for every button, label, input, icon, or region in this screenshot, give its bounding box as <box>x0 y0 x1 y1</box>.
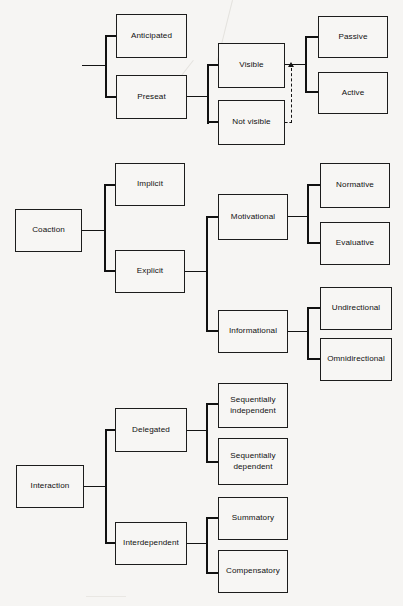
connector-preseat-to-bracket <box>187 96 208 97</box>
bracket-informational-split <box>307 307 309 360</box>
node-compensatory[interactable]: Compensatory <box>218 550 288 593</box>
node-label: Sequentially independent <box>230 395 276 416</box>
node-active[interactable]: Active <box>318 72 388 114</box>
node-label: Motivational <box>231 212 275 222</box>
node-label: Evaluative <box>336 238 374 248</box>
node-passive[interactable]: Passive <box>318 16 388 58</box>
node-label: Interaction <box>31 481 70 491</box>
connector-bracket-to-evaluative <box>307 242 321 244</box>
node-label: Coaction <box>32 225 65 235</box>
node-normative[interactable]: Normative <box>320 163 390 208</box>
node-motivational[interactable]: Motivational <box>218 194 288 240</box>
bracket-coaction-split <box>104 184 106 272</box>
feedback-arrow-line <box>291 68 292 123</box>
node-label: Sequentially dependent <box>230 451 275 472</box>
bracket-explicit-split <box>206 216 208 332</box>
bracket-interdependent-split <box>206 517 208 574</box>
node-omnidirectional[interactable]: Omnidirectional <box>320 338 392 381</box>
node-label: Compensatory <box>226 566 280 576</box>
scan-artifact <box>86 596 126 597</box>
node-label: Anticipated <box>131 31 172 41</box>
node-label: Passive <box>338 32 367 42</box>
node-label: Not visible <box>232 117 270 127</box>
node-undirectional[interactable]: Undirectional <box>320 287 392 330</box>
connector-explicit-to-bracket <box>185 271 207 272</box>
node-anticipated[interactable]: Anticipated <box>116 14 187 58</box>
node-label: Undirectional <box>332 303 381 313</box>
node-label: Informational <box>229 326 277 336</box>
node-sequentially-independent[interactable]: Sequentially independent <box>218 383 288 428</box>
connector-informational-to-bracket <box>288 331 309 332</box>
bracket-visible-split <box>305 36 307 93</box>
connector-bracket-to-passive <box>305 36 319 38</box>
node-delegated[interactable]: Delegated <box>115 408 187 452</box>
node-evaluative[interactable]: Evaluative <box>320 222 390 265</box>
bracket-delegated-split <box>206 403 208 463</box>
node-summatory[interactable]: Summatory <box>218 497 288 540</box>
node-label: Normative <box>336 180 374 190</box>
node-explicit[interactable]: Explicit <box>115 250 185 293</box>
node-not-visible[interactable]: Not visible <box>218 100 285 145</box>
connector-interdependent-to-bracket <box>187 543 207 544</box>
connector-interaction-to-bracket <box>84 486 106 487</box>
node-visible[interactable]: Visible <box>218 43 285 88</box>
connector-coaction-to-bracket <box>82 230 105 231</box>
hierarchy-diagram: Anticipated Preseat Visible Not visible … <box>0 0 403 606</box>
feedback-arrow-head <box>288 62 294 67</box>
bracket-motivational-split <box>307 184 309 244</box>
node-label: Summatory <box>232 513 274 523</box>
node-label: Active <box>342 88 365 98</box>
node-coaction[interactable]: Coaction <box>15 209 82 252</box>
node-preseat[interactable]: Preseat <box>116 75 187 119</box>
node-interdependent[interactable]: Interdependent <box>115 522 187 565</box>
node-label: Omnidirectional <box>327 354 385 364</box>
connector-bracket-to-undirectional <box>307 307 321 309</box>
node-implicit[interactable]: Implicit <box>115 163 185 206</box>
connector-bracket-to-omnidirectional <box>307 358 321 360</box>
connector-motivational-to-bracket <box>288 216 309 217</box>
node-interaction[interactable]: Interaction <box>16 465 84 508</box>
node-label: Preseat <box>137 92 166 102</box>
bracket-preseat-split <box>207 64 209 124</box>
node-label: Implicit <box>137 179 163 189</box>
node-informational[interactable]: Informational <box>218 310 288 353</box>
connector-audience-to-bracket <box>82 65 106 66</box>
node-label: Delegated <box>132 425 170 435</box>
connector-bracket-to-normative <box>307 184 321 186</box>
bracket-audience-split <box>105 35 107 98</box>
node-label: Visible <box>239 60 263 70</box>
node-label: Interdependent <box>123 538 179 548</box>
connector-bracket-to-active <box>305 91 319 93</box>
node-sequentially-dependent[interactable]: Sequentially dependent <box>218 438 288 485</box>
connector-delegated-to-bracket <box>187 430 207 431</box>
node-label: Explicit <box>137 266 163 276</box>
bracket-interaction-split <box>105 429 107 544</box>
